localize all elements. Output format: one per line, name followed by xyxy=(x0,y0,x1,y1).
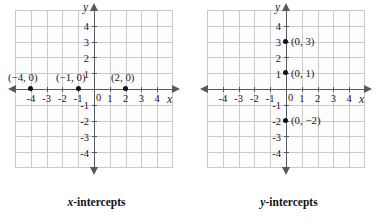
y-tick xyxy=(92,152,97,153)
y-axis-label: y xyxy=(83,2,88,14)
caption-text: -intercepts xyxy=(73,196,125,208)
x-tick-label-1: 1 xyxy=(105,94,115,105)
x-axis-arrow-right xyxy=(364,85,372,93)
x-axis-arrow-right xyxy=(172,85,180,93)
y-tick-label-2: 2 xyxy=(269,54,281,65)
data-point xyxy=(28,86,33,91)
y-tick xyxy=(92,136,97,137)
y-tick xyxy=(284,105,289,106)
x-tick xyxy=(157,87,158,92)
y-tick-label-neg3: -3 xyxy=(267,133,281,144)
y-axis-arrow-up xyxy=(282,3,290,11)
x-tick-label-neg2: -2 xyxy=(55,94,69,105)
y-axis-arrow-down xyxy=(90,167,98,175)
data-point xyxy=(123,86,128,91)
data-point-label: (−1, 0) xyxy=(56,72,85,83)
x-tick-label-1: 1 xyxy=(297,94,307,105)
y-axis-arrow-up xyxy=(90,3,98,11)
origin-label: 0 xyxy=(288,93,293,104)
y-tick-label-4: 4 xyxy=(269,22,281,33)
caption-text: -intercepts xyxy=(265,196,317,208)
y-tick-label-neg1: -1 xyxy=(75,101,89,112)
data-point xyxy=(283,39,288,44)
caption-x-intercepts: x-intercepts xyxy=(0,197,193,209)
x-tick-label-neg2: -2 xyxy=(247,94,261,105)
x-axis-arrow-left xyxy=(8,85,16,93)
origin-label: 0 xyxy=(96,93,101,104)
y-axis xyxy=(286,10,288,168)
figure-x-intercepts: -4 -3 -2 -1 1 2 3 4 4 3 2 1 -1 -2 -3 -4 … xyxy=(0,0,193,222)
x-tick-label-4: 4 xyxy=(152,94,162,105)
x-tick xyxy=(223,87,224,92)
y-tick xyxy=(284,26,289,27)
y-tick-label-neg1: -1 xyxy=(267,101,281,112)
x-tick xyxy=(270,87,271,92)
data-point-label: (0, 3) xyxy=(291,36,314,47)
y-axis-arrow-down xyxy=(282,167,290,175)
x-tick xyxy=(302,87,303,92)
data-point-label: (−4, 0) xyxy=(8,72,37,83)
x-tick xyxy=(333,87,334,92)
x-tick xyxy=(349,87,350,92)
data-point-label: (0, 1) xyxy=(291,68,314,79)
x-tick xyxy=(110,87,111,92)
y-tick-label-neg4: -4 xyxy=(75,149,89,160)
data-point xyxy=(283,70,288,75)
y-tick-label-neg4: -4 xyxy=(267,149,281,160)
x-tick-label-2: 2 xyxy=(121,94,131,105)
x-axis-label: x xyxy=(167,94,172,106)
x-tick-label-neg3: -3 xyxy=(40,94,54,105)
x-axis-label: x xyxy=(359,94,364,106)
x-tick xyxy=(318,87,319,92)
y-tick xyxy=(284,57,289,58)
y-axis xyxy=(94,10,96,168)
x-axis-arrow-left xyxy=(200,85,208,93)
y-tick xyxy=(284,152,289,153)
x-tick xyxy=(62,87,63,92)
x-tick-label-2: 2 xyxy=(313,94,323,105)
y-tick xyxy=(92,57,97,58)
x-tick-label-4: 4 xyxy=(344,94,354,105)
data-point-label: (0, −2) xyxy=(291,115,320,126)
y-tick-label-3: 3 xyxy=(77,38,89,49)
y-tick xyxy=(92,105,97,106)
x-tick xyxy=(239,87,240,92)
y-tick-label-4: 4 xyxy=(77,22,89,33)
data-point xyxy=(76,86,81,91)
coordinate-plane-x-intercepts: -4 -3 -2 -1 1 2 3 4 4 3 2 1 -1 -2 -3 -4 … xyxy=(15,10,173,168)
y-tick xyxy=(92,73,97,74)
y-axis-label: y xyxy=(275,2,280,14)
y-tick xyxy=(92,121,97,122)
y-tick-label-neg2: -2 xyxy=(267,117,281,128)
x-tick-label-3: 3 xyxy=(328,94,338,105)
y-tick-label-3: 3 xyxy=(269,38,281,49)
x-tick xyxy=(141,87,142,92)
caption-y-intercepts: y-intercepts xyxy=(193,197,385,209)
y-tick xyxy=(284,136,289,137)
x-tick xyxy=(254,87,255,92)
y-tick xyxy=(92,26,97,27)
y-tick-label-neg3: -3 xyxy=(75,133,89,144)
y-tick-label-2: 2 xyxy=(77,54,89,65)
y-tick xyxy=(92,42,97,43)
y-tick-label-1: 1 xyxy=(269,70,281,81)
figure-y-intercepts: -4 -3 -2 -1 1 2 3 4 4 3 2 1 -1 -2 -3 -4 … xyxy=(193,0,385,222)
x-tick-label-neg3: -3 xyxy=(232,94,246,105)
x-tick xyxy=(47,87,48,92)
data-point-label: (2, 0) xyxy=(111,72,134,83)
x-tick-label-neg4: -4 xyxy=(24,94,38,105)
y-tick-label-neg2: -2 xyxy=(75,117,89,128)
coordinate-plane-y-intercepts: -4 -3 -2 -1 1 2 3 4 4 3 2 1 -1 -2 -3 -4 … xyxy=(207,10,365,168)
x-tick-label-neg4: -4 xyxy=(216,94,230,105)
data-point xyxy=(283,118,288,123)
x-tick-label-3: 3 xyxy=(136,94,146,105)
